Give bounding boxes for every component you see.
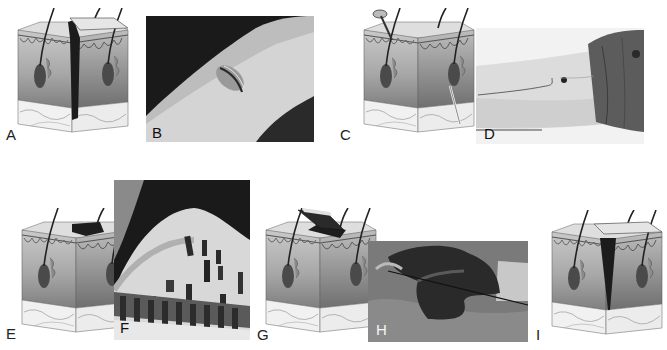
panel-label-c: C bbox=[340, 127, 351, 142]
panel-a-laceration-diagram bbox=[10, 8, 135, 138]
skin-cross-section-icon bbox=[10, 8, 135, 138]
panel-b-laceration-photo: B bbox=[146, 16, 314, 142]
skin-cross-section-icon bbox=[544, 210, 667, 340]
panel-label-i: I bbox=[536, 327, 540, 342]
panel-c-puncture-diagram bbox=[356, 8, 481, 138]
panel-label-h: H bbox=[376, 322, 387, 337]
panel-h-degloving-photo: H bbox=[368, 241, 528, 342]
panel-g-avulsion-diagram bbox=[258, 208, 383, 338]
panel-label-a: A bbox=[6, 127, 16, 142]
skin-cross-section-icon bbox=[258, 208, 383, 338]
skin-cross-section-icon bbox=[356, 8, 481, 138]
panel-i-incision-diagram bbox=[544, 210, 667, 340]
panel-label-g: G bbox=[257, 327, 269, 342]
panel-label-f: F bbox=[120, 320, 129, 335]
panel-label-b: B bbox=[152, 125, 162, 140]
panel-d-forearm-photo: D bbox=[476, 28, 644, 144]
panel-label-e: E bbox=[6, 326, 16, 341]
panel-label-d: D bbox=[484, 126, 495, 141]
panel-f-contusion-photo: F bbox=[114, 180, 250, 340]
